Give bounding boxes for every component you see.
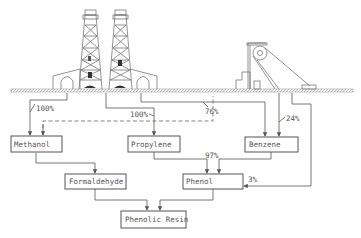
svg-text:Phenol: Phenol [186,177,213,186]
label-coal-to-benzene: 24% [286,114,300,123]
svg-text:Propylene: Propylene [131,140,172,149]
node-phenolic-resin: Phenolic Resin [121,211,188,228]
svg-text:Formaldehyde: Formaldehyde [69,177,124,186]
label-coal-to-phenol: 3% [248,175,258,184]
node-benzene: Benzene [245,137,298,152]
oil-derricks-illustration [53,10,157,89]
svg-text:Benzene: Benzene [249,140,281,149]
node-formaldehyde: Formaldehyde [65,174,126,189]
flow-diagram: 100% 100% 76% 24% 97% 3% Methanol Propyl… [0,0,361,238]
svg-text:Methanol: Methanol [14,140,50,149]
node-propylene: Propylene [128,136,180,152]
label-to-phenol: 97% [205,151,219,160]
label-oil-to-benzene: 76% [205,107,219,116]
coal-mine-headframe-illustration [236,43,316,89]
svg-text:Phenolic Resin: Phenolic Resin [125,215,188,224]
node-methanol: Methanol [11,136,62,152]
label-oil-to-propylene: 100% [130,110,149,119]
node-phenol: Phenol [183,174,243,189]
label-oil-to-methanol: 100% [36,104,55,113]
ground-line [11,89,353,92]
